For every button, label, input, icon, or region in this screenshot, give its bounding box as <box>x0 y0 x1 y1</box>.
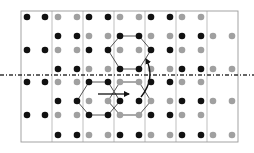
black-atom-dot <box>198 98 205 105</box>
gray-atom-dot <box>210 132 217 139</box>
lattice-frame <box>21 11 238 142</box>
black-atom-dot <box>148 112 155 119</box>
gray-atom-dot <box>55 47 62 54</box>
gray-atom-dot <box>74 14 81 21</box>
gray-atom-dot <box>86 98 93 105</box>
gray-atom-dot <box>210 33 217 40</box>
gray-atom-dot <box>74 47 81 54</box>
black-atom-dot <box>86 47 93 54</box>
gray-atom-dot <box>136 79 143 86</box>
gray-atom-dot <box>229 98 236 105</box>
black-atom-dot <box>198 132 205 139</box>
gray-atom-dot <box>148 33 155 40</box>
black-atom-dot <box>117 132 124 139</box>
black-atom-dot <box>179 66 186 73</box>
black-atom-dot <box>74 98 81 105</box>
gray-atom-dot <box>86 33 93 40</box>
black-atom-dot <box>167 14 174 21</box>
gray-atom-dot <box>229 33 236 40</box>
gray-atom-dot <box>136 14 143 21</box>
gray-atom-dot <box>117 112 124 119</box>
gray-atom-dot <box>198 14 205 21</box>
black-atom-dot <box>86 79 93 86</box>
black-atom-dot <box>55 33 62 40</box>
gray-atom-dot <box>105 132 112 139</box>
black-atom-dot <box>24 112 31 119</box>
gray-atom-dot <box>167 98 174 105</box>
gray-atom-dot <box>117 79 124 86</box>
gray-atom-dot <box>229 66 236 73</box>
gray-atom-dot <box>167 132 174 139</box>
black-atom-dot <box>148 47 155 54</box>
atom-dots <box>24 14 236 139</box>
black-atom-dot <box>24 47 31 54</box>
black-atom-dot <box>167 112 174 119</box>
black-atom-dot <box>136 98 143 105</box>
black-atom-dot <box>167 79 174 86</box>
gray-atom-dot <box>198 79 205 86</box>
gray-atom-dot <box>105 66 112 73</box>
gray-atom-dot <box>86 132 93 139</box>
gray-atom-dot <box>167 33 174 40</box>
gray-atom-dot <box>198 47 205 54</box>
gray-atom-dot <box>210 66 217 73</box>
gray-atom-dot <box>55 112 62 119</box>
black-atom-dot <box>117 33 124 40</box>
gray-atom-dot <box>55 79 62 86</box>
black-atom-dot <box>24 79 31 86</box>
black-atom-dot <box>55 132 62 139</box>
black-atom-dot <box>198 33 205 40</box>
black-atom-dot <box>198 66 205 73</box>
lattice-diagram <box>0 0 254 153</box>
black-atom-dot <box>42 79 49 86</box>
black-atom-dot <box>105 47 112 54</box>
rotation-arc-arrow-icon <box>141 59 150 97</box>
black-atom-dot <box>136 33 143 40</box>
gray-atom-dot <box>117 14 124 21</box>
gray-atom-dot <box>179 112 186 119</box>
black-atom-dot <box>55 98 62 105</box>
black-atom-dot <box>179 98 186 105</box>
gray-atom-dot <box>55 14 62 21</box>
gray-atom-dot <box>198 112 205 119</box>
gray-atom-dot <box>167 66 174 73</box>
column-grid <box>52 11 207 142</box>
black-atom-dot <box>148 14 155 21</box>
black-atom-dot <box>105 79 112 86</box>
black-atom-dot <box>167 47 174 54</box>
gray-atom-dot <box>210 98 217 105</box>
black-atom-dot <box>42 14 49 21</box>
gray-atom-dot <box>229 132 236 139</box>
black-atom-dot <box>55 66 62 73</box>
gray-atom-dot <box>74 112 81 119</box>
black-atom-dot <box>105 14 112 21</box>
gray-atom-dot <box>136 112 143 119</box>
gray-atom-dot <box>86 66 93 73</box>
gray-atom-dot <box>179 14 186 21</box>
gray-atom-dot <box>148 132 155 139</box>
black-atom-dot <box>74 66 81 73</box>
gray-atom-dot <box>74 79 81 86</box>
black-atom-dot <box>136 132 143 139</box>
black-atom-dot <box>74 132 81 139</box>
black-atom-dot <box>24 14 31 21</box>
gray-atom-dot <box>179 47 186 54</box>
gray-atom-dot <box>105 98 112 105</box>
black-atom-dot <box>136 66 143 73</box>
gray-atom-dot <box>136 47 143 54</box>
black-atom-dot <box>117 66 124 73</box>
black-atom-dot <box>42 112 49 119</box>
gray-atom-dot <box>179 79 186 86</box>
gray-atom-dot <box>117 47 124 54</box>
black-atom-dot <box>86 14 93 21</box>
black-atom-dot <box>105 112 112 119</box>
black-atom-dot <box>117 98 124 105</box>
black-atom-dot <box>86 112 93 119</box>
black-atom-dot <box>74 33 81 40</box>
gray-atom-dot <box>105 33 112 40</box>
gray-atom-dot <box>148 98 155 105</box>
black-atom-dot <box>42 47 49 54</box>
black-atom-dot <box>179 33 186 40</box>
black-atom-dot <box>179 132 186 139</box>
